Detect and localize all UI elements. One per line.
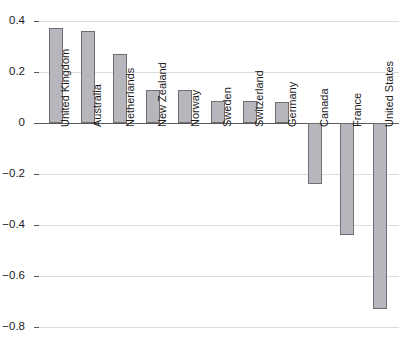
gridline bbox=[39, 276, 399, 277]
bar bbox=[340, 123, 354, 235]
y-axis-tick-label: 0.2 bbox=[0, 66, 25, 78]
y-axis-tick-label: 0.4 bbox=[0, 15, 25, 27]
x-axis-category-label: Canada bbox=[319, 88, 330, 127]
y-axis-tick-label: −0.2 bbox=[0, 168, 25, 180]
bar-chart: 0.40.20−0.2−0.4−0.6−0.8United KingdomAus… bbox=[0, 0, 410, 348]
y-axis-tick-label: −0.6 bbox=[0, 270, 25, 282]
y-axis-tick-label: −0.8 bbox=[0, 321, 25, 333]
gridline bbox=[39, 21, 399, 22]
bar bbox=[308, 123, 322, 184]
y-axis-tick-mark bbox=[34, 225, 39, 226]
y-axis-tick-mark bbox=[34, 21, 39, 22]
y-axis-tick-label: −0.4 bbox=[0, 219, 25, 231]
x-axis-category-label: Norway bbox=[190, 90, 201, 127]
x-axis-category-label: United Kingdom bbox=[60, 49, 71, 127]
x-axis-category-label: United States bbox=[384, 61, 395, 127]
gridline bbox=[39, 327, 399, 328]
bar bbox=[373, 123, 387, 309]
y-axis-tick-mark bbox=[34, 174, 39, 175]
y-axis-tick-mark bbox=[34, 276, 39, 277]
y-axis-tick-label: 0 bbox=[0, 117, 25, 129]
x-axis-category-label: Sweden bbox=[222, 87, 233, 127]
y-axis-tick-mark bbox=[34, 327, 39, 328]
x-axis-category-label: New Zealand bbox=[157, 62, 168, 127]
x-axis-category-label: Germany bbox=[287, 82, 298, 127]
x-axis-category-label: Switzerland bbox=[254, 70, 265, 127]
y-axis-tick-mark bbox=[34, 123, 39, 124]
x-axis-category-label: Netherlands bbox=[125, 68, 136, 127]
plot-area: 0.40.20−0.2−0.4−0.6−0.8United KingdomAus… bbox=[39, 8, 399, 340]
y-axis-tick-mark bbox=[34, 72, 39, 73]
x-axis-category-label: Australia bbox=[92, 84, 103, 127]
x-axis-category-label: France bbox=[352, 93, 363, 127]
